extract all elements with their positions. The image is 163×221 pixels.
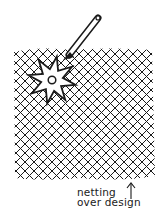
applicator-tool-icon: [63, 16, 100, 60]
caption: netting over design: [77, 187, 141, 207]
star-center-circle: [48, 76, 56, 84]
star-icon: [29, 57, 76, 104]
caption-line-2: over design: [77, 197, 141, 207]
